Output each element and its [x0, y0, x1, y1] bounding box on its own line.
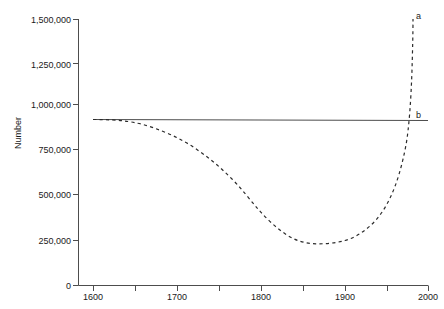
- chart-container: Number 1,500,000 1,250,000 1,000,000 750…: [0, 0, 444, 309]
- series-a-line: [93, 19, 413, 244]
- x-axis-ticks: [94, 286, 429, 292]
- plot-area: [0, 0, 444, 309]
- y-axis-ticks: [73, 20, 79, 286]
- axes: [79, 19, 429, 286]
- series-b-line: [93, 120, 428, 121]
